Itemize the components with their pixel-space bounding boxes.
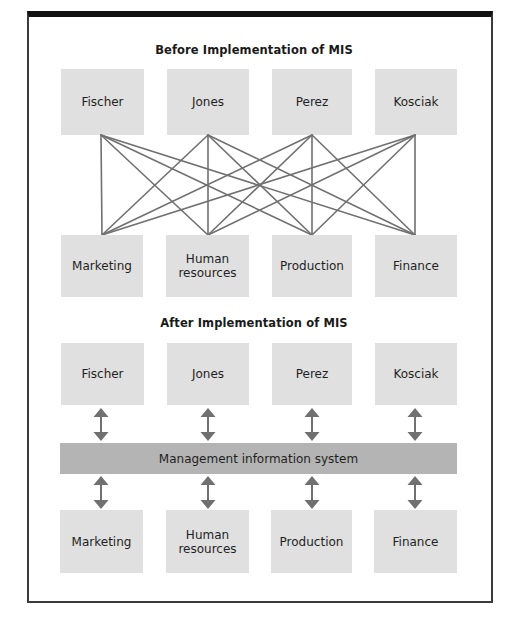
bidirectional-arrow-icon [304,476,320,509]
before-dept-human-resources: Humanresources [166,235,249,297]
after-dept-human-resources: Humanresources [166,510,249,573]
after-dept-finance: Finance [374,510,457,573]
after-dept-production: Production [271,510,352,573]
after-heading: After Implementation of MIS [0,316,508,330]
after-person-jones: Jones [167,343,249,405]
bidirectional-arrow-icon [407,476,423,509]
after-person-kosciak: Kosciak [375,343,457,405]
bidirectional-arrow-icon [93,408,109,441]
after-person-perez: Perez [272,343,352,405]
bidirectional-arrow-icon [200,476,216,509]
mis-label: Management information system [159,452,358,466]
after-dept-marketing: Marketing [60,510,143,573]
before-dept-marketing: Marketing [61,235,143,297]
bidirectional-arrow-icon [200,408,216,441]
before-dept-finance: Finance [375,235,457,297]
before-dept-production: Production [272,235,352,297]
bidirectional-arrow-icon [304,408,320,441]
bidirectional-arrow-icon [407,408,423,441]
after-person-fischer: Fischer [61,343,144,405]
bidirectional-arrow-icon [93,476,109,509]
management-information-system-bar: Management information system [60,443,457,474]
